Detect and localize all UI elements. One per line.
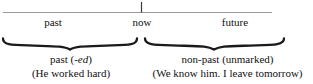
nonpast-group-example: (We know him. I leave tomorrow)	[142, 67, 313, 79]
past-underbrace-icon	[3, 39, 137, 50]
past-group-label-prefix: past (	[50, 53, 74, 65]
past-group-label-suffix: )	[88, 53, 92, 65]
nonpast-group-label-prefix: non-past (unmarked	[182, 53, 270, 65]
past-group-example: (He worked hard)	[0, 67, 142, 79]
nonpast-underbrace-icon	[145, 39, 284, 50]
axis-label-now: now	[114, 16, 170, 29]
past-group-label-affix: -ed	[74, 53, 88, 65]
tense-timeline-diagram: past now future past (-ed) (He worked ha…	[0, 0, 313, 84]
axis-label-future: future	[196, 16, 274, 29]
nonpast-group-label: non-past (unmarked)	[142, 53, 313, 65]
past-group-label: past (-ed)	[0, 53, 142, 65]
nonpast-group-label-suffix: )	[270, 53, 274, 65]
axis-label-past: past	[10, 16, 96, 29]
